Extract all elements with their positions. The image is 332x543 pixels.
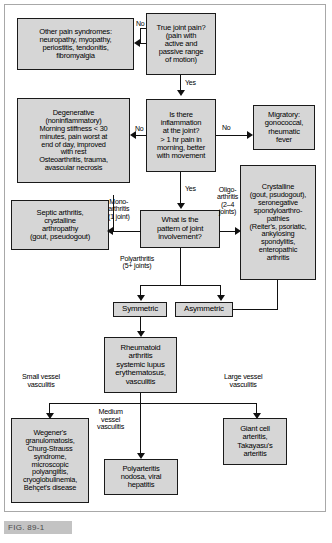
edge-inflammation-to-degenerative: [136, 135, 147, 136]
figure-page: Other pain syndromes: neuropathy, myopat…: [0, 0, 332, 543]
arrow-to-other-pain: [134, 39, 140, 47]
arrow-to-septic: [107, 227, 113, 235]
node-pattern-question: What is the pattern of joint involvement…: [140, 210, 220, 248]
edge-asymmetric-to-crystalline: [233, 309, 278, 310]
edge-inflammation-yes: [180, 172, 181, 205]
node-other-pain-syndromes: Other pain syndromes: neuropathy, myopat…: [17, 18, 134, 70]
edge-true-joint-pain-no-drop: [140, 28, 141, 44]
edge-label-small-vessel: Small vessel vasculitis: [22, 373, 60, 388]
node-degenerative: Degenerative (noninflammatory) Morning s…: [17, 98, 130, 183]
edge-true-joint-pain-no-stub: [140, 28, 146, 29]
edge-medium-vessel-stem: [140, 403, 141, 455]
arrow-to-crystalline: [235, 227, 241, 235]
edge-label-yes-true-joint-pain: Yes: [185, 79, 196, 86]
edge-pattern-to-crystalline: [220, 231, 236, 232]
edge-label-yes-inflammation: Yes: [185, 185, 196, 192]
node-polyarteritis-nodosa: Polyarteritis nodosa, viral hepatitis: [104, 459, 178, 495]
edge-label-mono-arthritis: Mono- arthritis (1 joint): [108, 198, 130, 220]
node-symmetric: Symmetric: [113, 302, 167, 317]
edge-poly-split-bar: [140, 285, 221, 286]
edge-label-large-vessel: Large vessel vasculitis: [224, 373, 262, 388]
edge-label-polyarthritis: Polyarthritis (5+ joints): [120, 255, 154, 270]
edge-label-medium-vessel: Medium vessel vasculitis: [97, 408, 124, 431]
edge-asymmetric-riser: [277, 280, 278, 310]
edge-vasculitis-split-bar: [49, 403, 257, 404]
node-rheumatoid-sle: Rheumatoid arthritis systemic lupus eryt…: [104, 337, 177, 393]
edge-label-no-inflammation-right: No: [222, 124, 231, 131]
node-septic-arthritis: Septic arthritis, crystalline arthropath…: [11, 200, 109, 250]
arrow-to-asymmetric: [217, 295, 225, 301]
node-inflammation-question: Is there inflammation at the joint? > 1 …: [146, 99, 216, 172]
edge-label-no-true-joint-pain: No: [136, 20, 145, 27]
arrow-to-inflammation: [177, 90, 185, 96]
arrow-to-pattern: [177, 203, 185, 209]
node-giant-cell-arteritis: Giant cell arteritis, Takayasu's arterit…: [223, 418, 287, 465]
edge-pattern-poly-stem: [180, 248, 181, 286]
node-wegeners-small-vessel: Wegener's granulomatosis, Churg-Strauss …: [11, 418, 89, 503]
arrow-to-migratory: [247, 131, 253, 139]
node-migratory: Migratory: gonococcal, rheumatic fever: [253, 105, 315, 150]
figure-caption-text: FIG. 89-1: [8, 523, 45, 532]
edge-inflammation-to-migratory: [216, 135, 248, 136]
arrow-to-symmetric: [137, 295, 145, 301]
figure-caption-bar: FIG. 89-1: [4, 521, 72, 534]
node-true-joint-pain: True joint pain? (pain with active and p…: [146, 13, 216, 75]
edge-label-no-inflammation-left: No: [135, 125, 144, 132]
edge-label-oligo-arthritis: Oligo- arthritis (2–4 joints): [217, 186, 238, 215]
node-crystalline-seronegative: Crystalline (gout, psudogout), seronegat…: [240, 165, 316, 280]
node-asymmetric: Asymmetric: [175, 302, 233, 317]
edge-pattern-to-septic: [113, 231, 141, 232]
